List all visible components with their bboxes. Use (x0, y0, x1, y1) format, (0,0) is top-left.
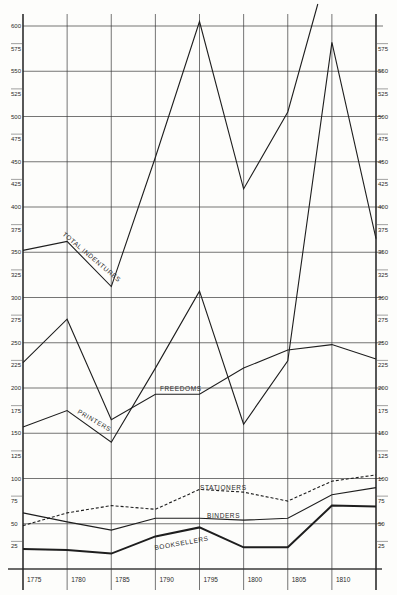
y-tick-label: 250 (378, 340, 389, 346)
y-axis-left-ticks: 2550751001251501752002252502753003253503… (11, 23, 22, 549)
y-tick-label: 525 (378, 91, 389, 97)
y-tick-label: 50 (378, 521, 385, 527)
label-binders: BINDERS (207, 512, 240, 519)
y-tick-label: 575 (378, 46, 389, 52)
y-tick-label: 100 (11, 476, 22, 482)
y-tick-label: 300 (11, 295, 22, 301)
y-tick-label: 500 (11, 114, 22, 120)
y-tick-label: 525 (11, 91, 22, 97)
y-tick-label: 575 (11, 46, 22, 52)
y-tick-label: 175 (11, 408, 22, 414)
x-tick-label: 1805 (292, 576, 307, 583)
y-tick-label: 250 (11, 340, 22, 346)
x-tick-label: 1795 (204, 576, 219, 583)
y-tick-label: 325 (378, 272, 389, 278)
y-tick-label: 200 (378, 385, 389, 391)
series-labels: TOTAL INDENTURES PRINTERS FREEDOMS STATI… (61, 230, 246, 551)
y-tick-label: 175 (378, 408, 389, 414)
x-tick-label: 1785 (115, 576, 130, 583)
y-tick-label: 375 (378, 227, 389, 233)
y-tick-label: 450 (378, 159, 389, 165)
y-tick-label: 475 (11, 136, 22, 142)
y-tick-label: 225 (378, 362, 389, 368)
x-axis-ticks: 17751780178517901795180018051810 (27, 576, 351, 583)
y-tick-label: 225 (11, 362, 22, 368)
y-tick-label: 150 (11, 430, 22, 436)
line-chart: 2550751001251501752002252502753003253503… (0, 0, 397, 595)
y-tick-label: 200 (11, 385, 22, 391)
y-tick-label: 550 (11, 68, 22, 74)
y-tick-label: 125 (11, 453, 22, 459)
y-tick-label: 75 (378, 498, 385, 504)
x-tick-label: 1800 (248, 576, 263, 583)
label-total-indentures: TOTAL INDENTURES (61, 230, 122, 283)
y-tick-label: 550 (378, 68, 389, 74)
label-stationers: STATIONERS (200, 484, 247, 491)
x-tick-label: 1775 (27, 576, 42, 583)
y-tick-label: 400 (11, 204, 22, 210)
y-tick-label: 25 (378, 543, 385, 549)
x-tick-label: 1790 (159, 576, 174, 583)
x-tick-label: 1810 (336, 576, 351, 583)
y-tick-label: 350 (378, 249, 389, 255)
y-tick-label: 475 (378, 136, 389, 142)
y-tick-label: 425 (11, 181, 22, 187)
y-tick-label: 400 (378, 204, 389, 210)
y-tick-label: 50 (11, 521, 18, 527)
y-tick-label: 600 (11, 23, 22, 29)
y-tick-label: 500 (378, 114, 389, 120)
y-tick-label: 425 (378, 181, 389, 187)
y-tick-label: 300 (378, 295, 389, 301)
y-tick-label: 450 (11, 159, 22, 165)
y-tick-label: 275 (378, 317, 389, 323)
y-tick-label: 350 (11, 249, 22, 255)
y-tick-label: 125 (378, 453, 389, 459)
x-tick-label: 1780 (71, 576, 86, 583)
grid (8, 14, 383, 590)
y-tick-label: 275 (11, 317, 22, 323)
y-axis-right-ticks: 2550751001251501752002252502753003253503… (377, 44, 389, 550)
label-booksellers: BOOKSELLERS (154, 535, 209, 551)
y-tick-label: 325 (11, 272, 22, 278)
y-tick-label: 375 (11, 227, 22, 233)
y-tick-label: 150 (378, 430, 389, 436)
y-tick-label: 25 (11, 543, 18, 549)
label-freedoms: FREEDOMS (160, 385, 202, 392)
y-tick-label: 75 (11, 498, 18, 504)
y-tick-label: 100 (378, 476, 389, 482)
